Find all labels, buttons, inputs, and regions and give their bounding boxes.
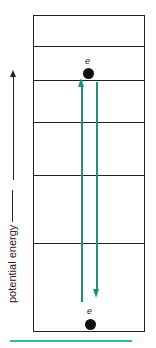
energy-level-6 bbox=[34, 46, 144, 47]
divider-bar bbox=[10, 340, 132, 342]
axis-line bbox=[12, 190, 13, 222]
energy-level-5 bbox=[34, 80, 144, 81]
cropped-caption bbox=[50, 0, 80, 4]
energy-level-3 bbox=[34, 175, 144, 176]
electron-ground bbox=[85, 319, 96, 330]
axis-label-text: potential energy bbox=[6, 225, 18, 303]
emission-arrow bbox=[96, 82, 98, 290]
up-arrow-icon bbox=[13, 76, 14, 180]
energy-level-2 bbox=[34, 243, 144, 244]
y-axis-label: potential energy bbox=[6, 173, 18, 303]
electron-label-bottom: e bbox=[87, 306, 92, 316]
excitation-arrow bbox=[81, 86, 83, 302]
energy-level-4 bbox=[34, 122, 144, 123]
electron-label-top: e bbox=[85, 56, 90, 66]
electron-excited bbox=[83, 68, 94, 79]
